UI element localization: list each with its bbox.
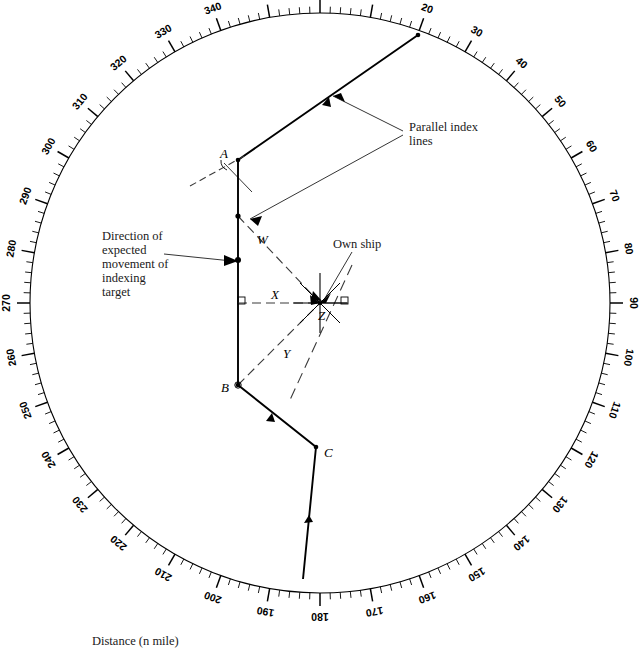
compass-tick-114 bbox=[585, 421, 591, 424]
compass-tick-10 bbox=[370, 5, 372, 18]
leader-arrow-upper bbox=[333, 93, 345, 102]
compass-tick-258 bbox=[30, 363, 36, 364]
compass-tick-12 bbox=[380, 13, 381, 19]
compass-tick-28 bbox=[456, 41, 459, 47]
compass-tick-142 bbox=[499, 532, 503, 537]
compass-label-200: 200 bbox=[202, 589, 223, 606]
compass-tick-42 bbox=[514, 83, 518, 88]
compass-label-160: 160 bbox=[417, 589, 438, 606]
compass-tick-188 bbox=[279, 590, 280, 596]
compass-tick-102 bbox=[604, 363, 610, 364]
compass-tick-72 bbox=[596, 211, 602, 213]
compass-tick-62 bbox=[576, 164, 582, 167]
compass-tick-186 bbox=[289, 591, 290, 597]
compass-tick-18 bbox=[410, 21, 412, 27]
compass-tick-52 bbox=[549, 120, 554, 124]
compass-tick-232 bbox=[86, 482, 91, 486]
vertex-dot-entry bbox=[416, 33, 421, 38]
annotation-direction-line1: Direction of bbox=[102, 229, 164, 243]
compass-label-140: 140 bbox=[511, 533, 532, 554]
compass-tick-78 bbox=[604, 241, 610, 242]
compass-label-50: 50 bbox=[552, 93, 569, 110]
direction-of-movement-leader bbox=[164, 254, 238, 266]
own-ship-heading-dash bbox=[290, 265, 352, 400]
compass-label-60: 60 bbox=[584, 138, 600, 154]
compass-tick-264 bbox=[25, 333, 31, 334]
compass-label-170: 170 bbox=[365, 605, 384, 620]
compass-tick-154 bbox=[447, 564, 450, 570]
compass-tick-252 bbox=[38, 393, 44, 395]
compass-tick-340 bbox=[216, 18, 220, 30]
compass-label-320: 320 bbox=[108, 52, 129, 73]
compass-tick-68 bbox=[589, 192, 595, 194]
point-label-b: B bbox=[221, 380, 229, 395]
compass-label-350: 350 bbox=[256, 0, 275, 1]
compass-tick-14 bbox=[390, 15, 392, 21]
compass-tick-84 bbox=[608, 272, 614, 273]
compass-tick-106 bbox=[599, 383, 605, 385]
compass-tick-332 bbox=[181, 41, 184, 47]
compass-tick-298 bbox=[58, 164, 64, 167]
compass-tick-254 bbox=[35, 383, 41, 385]
compass-tick-288 bbox=[38, 211, 44, 213]
compass-tick-320 bbox=[125, 71, 133, 81]
compass-tick-286 bbox=[35, 221, 41, 223]
compass-tick-206 bbox=[190, 564, 193, 570]
vertex-dot-a bbox=[236, 158, 241, 163]
compass-tick-136 bbox=[521, 512, 526, 517]
compass-tick-132 bbox=[536, 497, 541, 501]
compass-tick-324 bbox=[146, 63, 150, 68]
indexing-target-track bbox=[238, 35, 418, 579]
point-label-z: Z bbox=[318, 308, 326, 323]
segment-label-x: X bbox=[270, 287, 280, 302]
compass-tick-352 bbox=[279, 9, 280, 15]
compass-tick-246 bbox=[49, 421, 55, 424]
compass-tick-244 bbox=[54, 430, 60, 433]
target-track-line bbox=[238, 35, 418, 579]
track-direction-arrow-bottom bbox=[304, 515, 313, 523]
compass-tick-82 bbox=[607, 262, 613, 263]
segment-label-w: W bbox=[257, 232, 269, 247]
annotation-parallel-index-line1: Parallel index bbox=[409, 120, 479, 134]
compass-label-10: 10 bbox=[368, 0, 382, 1]
compass-tick-32 bbox=[474, 52, 477, 58]
compass-tick-354 bbox=[289, 8, 290, 14]
compass-tick-228 bbox=[100, 497, 105, 501]
compass-tick-336 bbox=[199, 32, 202, 38]
compass-tick-302 bbox=[69, 146, 75, 149]
compass-tick-22 bbox=[429, 28, 431, 34]
compass-tick-280 bbox=[22, 250, 35, 252]
vertex-dot-w-origin bbox=[235, 213, 240, 218]
compass-tick-322 bbox=[137, 69, 141, 74]
compass-tick-166 bbox=[390, 584, 392, 590]
compass-tick-16 bbox=[400, 18, 402, 24]
compass-tick-346 bbox=[248, 15, 250, 21]
own-ship-leader bbox=[320, 252, 352, 303]
compass-tick-310 bbox=[88, 108, 98, 116]
compass-tick-96 bbox=[608, 333, 614, 334]
compass-tick-296 bbox=[54, 173, 60, 176]
compass-tick-120 bbox=[571, 448, 582, 455]
compass-tick-306 bbox=[80, 129, 85, 133]
compass-tick-344 bbox=[238, 18, 240, 24]
compass-tick-130 bbox=[542, 489, 552, 497]
compass-tick-172 bbox=[360, 590, 361, 596]
compass-label-240: 240 bbox=[38, 449, 57, 470]
compass-label-120: 120 bbox=[582, 449, 601, 470]
compass-tick-36 bbox=[490, 63, 494, 68]
radar-plotting-diagram: 0102030405060708090100110120130140150160… bbox=[0, 0, 641, 655]
annotation-direction-line3: movement of bbox=[102, 257, 169, 271]
compass-tick-334 bbox=[190, 37, 193, 43]
compass-tick-170 bbox=[370, 589, 372, 602]
annotation-direction-line4: indexing bbox=[102, 271, 146, 285]
compass-tick-38 bbox=[499, 69, 503, 74]
annotation-parallel-index-line2: lines bbox=[409, 134, 433, 148]
annotation-direction-line2: expected bbox=[102, 243, 147, 257]
compass-label-40: 40 bbox=[514, 54, 531, 71]
compass-tick-214 bbox=[154, 543, 158, 548]
vertex-dot-direction bbox=[235, 257, 241, 263]
compass-tick-196 bbox=[238, 582, 240, 588]
compass-label-270: 270 bbox=[0, 294, 12, 312]
compass-tick-194 bbox=[248, 584, 250, 590]
compass-tick-162 bbox=[410, 579, 412, 585]
